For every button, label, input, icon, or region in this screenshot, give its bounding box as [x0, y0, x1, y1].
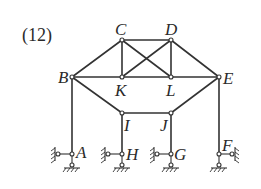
- joint-J: [169, 111, 173, 115]
- label-G: G: [174, 145, 186, 164]
- joint-I: [120, 111, 124, 115]
- label-C: C: [115, 20, 127, 39]
- figure-number-label: (12): [22, 25, 52, 46]
- hinge-icon: [70, 163, 74, 167]
- joint-F: [217, 152, 221, 156]
- label-L: L: [165, 81, 175, 100]
- structure-diagram: (12): [0, 0, 261, 189]
- hinge-icon: [106, 152, 110, 156]
- label-K: K: [114, 81, 128, 100]
- joint-G: [169, 152, 173, 156]
- node-labels: C D B E K L I J A H G F: [58, 20, 234, 164]
- joint-E: [217, 75, 221, 79]
- hinge-icon: [169, 163, 173, 167]
- member-DE: [171, 40, 219, 77]
- label-D: D: [164, 20, 178, 39]
- joint-A: [70, 152, 74, 156]
- joint-L: [169, 75, 173, 79]
- label-J: J: [160, 116, 169, 135]
- member-BC: [72, 40, 122, 77]
- member-JE: [171, 77, 219, 113]
- label-F: F: [221, 136, 233, 155]
- hinge-icon: [120, 163, 124, 167]
- label-B: B: [58, 68, 69, 87]
- joint-H: [120, 152, 124, 156]
- hinge-icon: [56, 152, 60, 156]
- hinge-icon: [155, 152, 159, 156]
- joints: [70, 38, 221, 156]
- joint-B: [70, 75, 74, 79]
- truss-members: [72, 40, 219, 154]
- label-A: A: [75, 143, 87, 162]
- joint-K: [120, 75, 124, 79]
- label-I: I: [123, 116, 131, 135]
- label-H: H: [125, 145, 140, 164]
- hinge-icon: [217, 163, 221, 167]
- label-E: E: [222, 69, 234, 88]
